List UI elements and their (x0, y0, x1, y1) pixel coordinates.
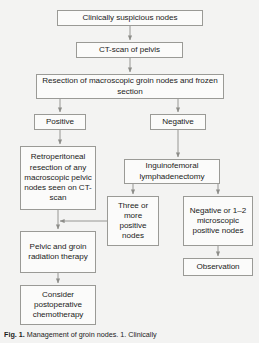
figure-caption-text: Management of groin nodes. 1. Clinically (27, 330, 157, 339)
node-observation[interactable]: Observation (183, 258, 253, 276)
node-consider-postoperative-chemotherapy[interactable]: Consider postoperative chemotherapy (20, 285, 96, 325)
node-resection-macroscopic-groin-nodes[interactable]: Resection of macroscopic groin nodes and… (36, 74, 224, 99)
node-positive[interactable]: Positive (34, 114, 86, 130)
node-negative-or-1-2-microscopic-positive-nodes[interactable]: Negative or 1–2 microscopic positive nod… (183, 196, 253, 246)
figure-caption: Fig. 1. Management of groin nodes. 1. Cl… (4, 330, 257, 343)
node-clinically-suspicious-nodes[interactable]: Clinically suspicious nodes (57, 10, 203, 26)
node-label: Negative or 1–2 microscopic positive nod… (186, 206, 250, 237)
node-label: Clinically suspicious nodes (60, 13, 200, 23)
node-inguinofemoral-lymphadenectomy[interactable]: Inguinofemoral lymphadenectomy (124, 159, 220, 184)
node-label: CT-scan of pelvis (79, 45, 180, 55)
node-three-or-more-positive-nodes[interactable]: Three or more positive nodes (107, 196, 159, 246)
figure-container: Clinically suspicious nodes CT-scan of p… (0, 0, 259, 343)
node-ct-scan-of-pelvis[interactable]: CT-scan of pelvis (76, 42, 183, 58)
node-label: Retroperitoneal resection of any macrosc… (23, 152, 93, 203)
node-label: Negative (153, 117, 203, 127)
node-label: Three or more positive nodes (110, 201, 156, 242)
node-negative[interactable]: Negative (150, 114, 206, 130)
node-label: Resection of macroscopic groin nodes and… (39, 76, 221, 96)
node-retroperitoneal-resection[interactable]: Retroperitoneal resection of any macrosc… (20, 146, 96, 210)
node-label: Observation (186, 262, 250, 272)
node-pelvic-and-groin-radiation-therapy[interactable]: Pelvic and groin radiation therapy (20, 231, 96, 273)
figure-caption-prefix: Fig. 1. (4, 330, 25, 339)
node-label: Positive (37, 117, 83, 127)
node-label: Pelvic and groin radiation therapy (23, 242, 93, 262)
node-label: Inguinofemoral lymphadenectomy (127, 161, 217, 181)
flowchart-canvas: Clinically suspicious nodes CT-scan of p… (0, 0, 259, 330)
node-label: Consider postoperative chemotherapy (23, 290, 93, 321)
